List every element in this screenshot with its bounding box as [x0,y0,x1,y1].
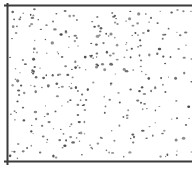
stipple-dots [9,8,192,159]
stipple-pattern-diagram [0,0,192,178]
